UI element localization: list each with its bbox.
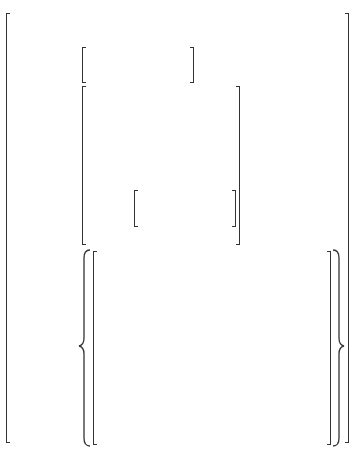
- adjunct-right-bracket: [327, 251, 331, 445]
- adjunct-set-braces: [0, 0, 357, 457]
- adjunct-left-bracket: [93, 251, 97, 445]
